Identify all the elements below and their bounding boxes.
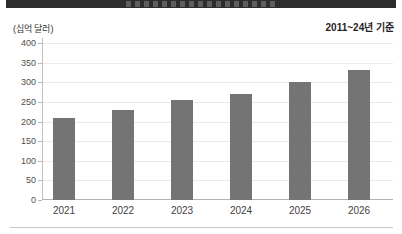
bottom-divider <box>10 227 393 228</box>
y-tick-label-250: 250 <box>2 97 36 107</box>
y-tick-250 <box>38 102 42 103</box>
y-tick-label-150: 150 <box>2 136 36 146</box>
cropped-title-text-fragment <box>126 1 276 7</box>
gridline-250 <box>43 102 393 103</box>
gridline-200 <box>43 122 393 123</box>
x-tick-label-2026: 2026 <box>348 205 370 216</box>
bar-2024 <box>230 94 252 200</box>
y-tick-100 <box>38 161 42 162</box>
y-tick-300 <box>38 82 42 83</box>
report-chart-page: (십억 달러) 2011~24년 기준 05010015020025030035… <box>0 0 402 234</box>
bar-2023 <box>171 100 193 200</box>
x-tick-label-2022: 2022 <box>112 205 134 216</box>
y-tick-400 <box>38 43 42 44</box>
x-tick-label-2023: 2023 <box>171 205 193 216</box>
gridline-350 <box>43 63 393 64</box>
y-tick-label-400: 400 <box>2 38 36 48</box>
y-tick-label-0: 0 <box>2 195 36 205</box>
x-tick-label-2021: 2021 <box>53 205 75 216</box>
bar-2025 <box>289 82 311 200</box>
bar-2021 <box>53 118 75 200</box>
bar-2022 <box>112 110 134 200</box>
y-tick-label-100: 100 <box>2 156 36 166</box>
data-basis-label: 2011~24년 기준 <box>326 19 394 34</box>
y-axis-line <box>42 38 43 200</box>
y-axis-unit-label: (십억 달러) <box>13 22 54 35</box>
gridline-50 <box>43 180 393 181</box>
bar-2026 <box>348 70 370 200</box>
gridline-300 <box>43 82 393 83</box>
y-tick-50 <box>38 180 42 181</box>
x-tick-label-2025: 2025 <box>289 205 311 216</box>
y-tick-label-300: 300 <box>2 77 36 87</box>
bar-chart: 050100150200250300350400 202120222023202… <box>42 43 393 200</box>
x-axis-line <box>42 199 393 200</box>
y-tick-200 <box>38 122 42 123</box>
cropped-title-band <box>6 0 396 8</box>
x-tick-label-2024: 2024 <box>230 205 252 216</box>
y-tick-label-200: 200 <box>2 117 36 127</box>
y-tick-label-350: 350 <box>2 58 36 68</box>
y-tick-label-50: 50 <box>2 175 36 185</box>
gridline-400 <box>43 43 393 44</box>
gridline-150 <box>43 141 393 142</box>
y-tick-0 <box>38 200 42 201</box>
y-tick-350 <box>38 63 42 64</box>
gridline-100 <box>43 161 393 162</box>
y-tick-150 <box>38 141 42 142</box>
